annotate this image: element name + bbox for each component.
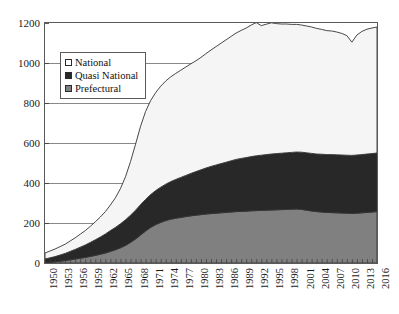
x-tick-label: 1968 [140, 268, 150, 289]
legend-swatch-icon [65, 72, 72, 79]
x-tick-label: 2010 [351, 268, 361, 289]
x-tick-label: 2007 [336, 268, 346, 289]
x-tick-label: 1995 [275, 268, 285, 289]
legend-label: Quasi National [75, 70, 138, 81]
x-tick-label: 1992 [260, 268, 270, 289]
chart-legend: NationalQuasi NationalPrefectural [60, 52, 146, 99]
x-tick-label: 1959 [94, 268, 104, 289]
x-tick-label: 1974 [170, 268, 180, 289]
y-axis: 120010008006004002000 [0, 0, 40, 314]
legend-item[interactable]: National [65, 56, 141, 69]
y-tick-label: 200 [6, 218, 40, 228]
legend-item[interactable]: Quasi National [65, 69, 141, 82]
y-tick-label: 600 [6, 138, 40, 148]
legend-label: Prefectural [75, 83, 121, 94]
x-tick-label: 1980 [200, 268, 210, 289]
x-tick-label: 1962 [109, 268, 119, 289]
x-tick-label: 1986 [230, 268, 240, 289]
x-tick-label: 2004 [321, 268, 331, 289]
y-tick-label: 1000 [6, 58, 40, 68]
x-tick-label: 2013 [366, 268, 376, 289]
legend-label: National [75, 57, 111, 68]
x-tick-label: 1989 [245, 268, 255, 289]
x-tick-label: 1971 [155, 268, 165, 289]
x-tick-label: 1983 [215, 268, 225, 289]
legend-item[interactable]: Prefectural [65, 82, 141, 95]
y-tick-label: 400 [6, 178, 40, 188]
x-tick-label: 1953 [64, 268, 74, 289]
y-tick-label: 800 [6, 98, 40, 108]
x-tick-label: 1965 [124, 268, 134, 289]
legend-swatch-icon [65, 85, 72, 92]
chart-figure: 120010008006004002000 195019531956195919… [0, 0, 399, 314]
x-tick-label: 1977 [185, 268, 195, 289]
legend-swatch-icon [65, 59, 72, 66]
y-tick-label: 1200 [6, 18, 40, 28]
x-tick-label: 2001 [306, 268, 316, 289]
x-tick-label: 1950 [49, 268, 59, 289]
x-tick-label: 1998 [290, 268, 300, 289]
y-tick-label: 0 [6, 258, 40, 268]
x-tick-label: 2016 [381, 268, 391, 289]
x-tick-label: 1956 [79, 268, 89, 289]
